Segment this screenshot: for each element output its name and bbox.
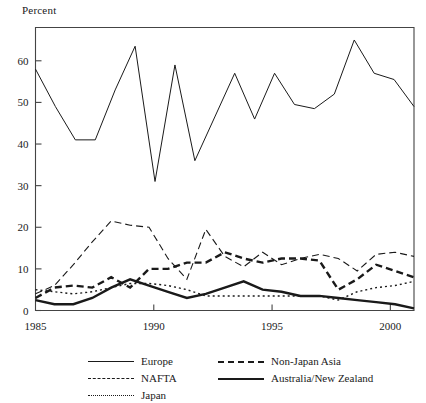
legend-label-australia-new-zealand: Australia/New Zealand xyxy=(271,372,373,384)
y-tick-label: 50 xyxy=(18,96,30,108)
plot-area: 0102030405060 1985199019952000 xyxy=(0,0,426,352)
legend-line-icon-non-japan-asia xyxy=(218,355,264,367)
legend-line-icon-nafta xyxy=(88,372,134,384)
series-line-nafta xyxy=(36,221,415,294)
series-line-australia-new-zealand xyxy=(36,279,415,308)
x-tick-label: 1995 xyxy=(261,320,284,332)
legend-line-icon-australia-new-zealand xyxy=(218,372,264,384)
y-axis-ticks xyxy=(36,61,42,311)
x-axis-tick-labels: 1985199019952000 xyxy=(25,320,402,332)
legend-line-icon-europe xyxy=(88,355,134,367)
y-tick-label: 60 xyxy=(18,55,30,67)
legend-label-non-japan-asia: Non-Japan Asia xyxy=(271,355,341,367)
axis-frame xyxy=(36,28,415,311)
chart-figure: Percent 0102030405060 1985199019952000 E… xyxy=(0,0,426,403)
legend-line-icon-japan xyxy=(88,389,134,401)
legend-item-japan: Japan xyxy=(88,386,177,403)
y-axis-tick-labels: 0102030405060 xyxy=(18,55,30,317)
legend-label-europe: Europe xyxy=(141,355,173,367)
y-tick-label: 40 xyxy=(18,138,30,150)
x-axis-ticks xyxy=(154,305,391,311)
y-tick-label: 0 xyxy=(23,305,29,317)
data-series-group xyxy=(36,40,415,308)
y-tick-label: 20 xyxy=(18,221,30,233)
x-tick-label: 1990 xyxy=(143,320,166,332)
legend-item-europe: Europe xyxy=(88,352,177,369)
x-tick-label: 1985 xyxy=(25,320,48,332)
y-tick-label: 10 xyxy=(18,263,30,275)
legend-label-nafta: NAFTA xyxy=(141,372,177,384)
x-tick-label: 2000 xyxy=(379,320,402,332)
legend-item-non-japan-asia: Non-Japan Asia xyxy=(218,352,373,369)
legend-label-japan: Japan xyxy=(141,389,166,401)
legend-column-right: Non-Japan Asia Australia/New Zealand xyxy=(218,352,373,386)
legend-column-left: Europe NAFTA Japan xyxy=(88,352,177,403)
y-tick-label: 30 xyxy=(18,180,30,192)
series-line-europe xyxy=(36,40,415,182)
legend-item-australia-new-zealand: Australia/New Zealand xyxy=(218,369,373,386)
legend-item-nafta: NAFTA xyxy=(88,369,177,386)
